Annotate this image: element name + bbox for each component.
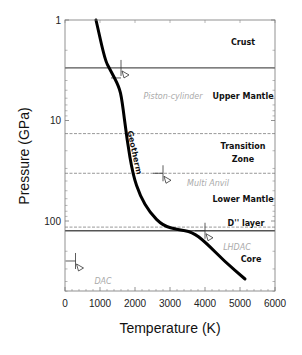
x-tick-label: 0 [62,298,68,309]
x-tick-label: 3000 [159,298,182,309]
arrow-triangle-icon [164,176,171,183]
label-lhdac: LHDAC [223,243,251,252]
x-axis-title: Temperature (K) [119,320,220,336]
x-tick-label: 2000 [124,298,147,309]
x-tick-label: 5000 [229,298,252,309]
y-tick-label: 1 [55,15,61,26]
label-upper-mantle: Upper Mantle [212,92,274,101]
label-lower-mantle: Lower Mantle [212,195,274,204]
arrow-triangle-icon [206,234,213,241]
x-tick-label: 6000 [264,298,287,309]
x-tick-label: 1000 [89,298,112,309]
arrow-triangle-icon [77,264,84,271]
label-core: Core [241,255,262,264]
x-tick-label: 4000 [194,298,217,309]
pressure-temperature-chart: 0100020003000400050006000110100 CrustUpp… [0,0,302,355]
label-crust: Crust [231,38,255,47]
multi-anvil-marker [153,165,171,183]
dac-marker [66,253,84,271]
label-zone: Zone [232,155,255,164]
label-d-layer: D'' layer [228,219,265,228]
label-transition: Transition [221,142,266,151]
y-axis-title: Pressure (GPa) [16,107,32,204]
arrow-triangle-icon [122,71,129,78]
label-multi-anvil: Multi Anvil [187,179,230,188]
label-dac: DAC [94,277,112,286]
label-piston-cylinder: Piston-cylinder [143,92,203,101]
y-tick-label: 100 [44,216,61,227]
y-tick-label: 10 [50,115,62,126]
